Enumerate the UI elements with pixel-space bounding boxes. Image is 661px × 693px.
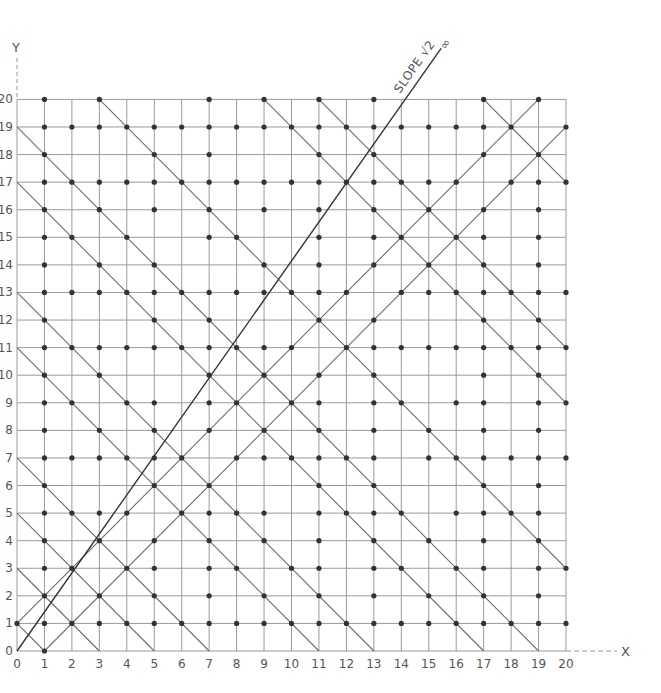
lattice-dot <box>152 124 157 129</box>
lattice-dot <box>69 235 74 240</box>
lattice-dot <box>426 290 431 295</box>
lattice-dot <box>261 97 266 102</box>
lattice-dot <box>42 373 47 378</box>
lattice-dot <box>124 180 129 185</box>
lattice-dot <box>536 400 541 405</box>
lattice-dot <box>316 428 321 433</box>
lattice-dot <box>42 317 47 322</box>
lattice-dot <box>481 97 486 102</box>
x-tick-label: 8 <box>233 657 241 671</box>
lattice-dot <box>42 483 47 488</box>
lattice-dot <box>42 345 47 350</box>
y-tick-label: 18 <box>0 148 13 162</box>
lattice-dot <box>536 455 541 460</box>
lattice-dot <box>207 621 212 626</box>
lattice-dot <box>42 648 47 653</box>
lattice-dot <box>344 510 349 515</box>
y-tick-label: 20 <box>0 92 13 106</box>
y-tick-label: 13 <box>0 285 13 299</box>
lattice-dot <box>207 400 212 405</box>
lattice-dot <box>536 373 541 378</box>
y-tick-label: 17 <box>0 175 13 189</box>
y-tick-label: 19 <box>0 120 13 134</box>
lattice-dot <box>152 538 157 543</box>
lattice-dot <box>371 400 376 405</box>
lattice-dot <box>509 124 514 129</box>
x-tick-label: 18 <box>503 657 518 671</box>
lattice-dot <box>97 510 102 515</box>
y-tick-label: 9 <box>5 396 13 410</box>
y-tick-label: 5 <box>5 506 13 520</box>
lattice-dot <box>152 621 157 626</box>
lattice-dot <box>316 262 321 267</box>
lattice-dot <box>371 621 376 626</box>
lattice-dot <box>481 428 486 433</box>
lattice-dot <box>152 483 157 488</box>
lattice-dot <box>371 483 376 488</box>
y-tick-label: 16 <box>0 203 13 217</box>
lattice-dot <box>179 455 184 460</box>
lattice-dot <box>42 538 47 543</box>
lattice-dot <box>316 538 321 543</box>
lattice-dot <box>97 538 102 543</box>
lattice-dot <box>371 593 376 598</box>
anti-diagonal-line <box>264 99 566 402</box>
x-tick-label: 19 <box>531 657 546 671</box>
x-tick-label: 1 <box>41 657 49 671</box>
lattice-dot <box>563 124 568 129</box>
lattice-dot <box>563 345 568 350</box>
lattice-dot <box>371 97 376 102</box>
diagonal-line <box>44 127 566 651</box>
lattice-dot <box>426 428 431 433</box>
lattice-dot <box>536 317 541 322</box>
lattice-dot <box>207 538 212 543</box>
lattice-dot <box>371 262 376 267</box>
lattice-dot <box>344 621 349 626</box>
lattice-dot <box>261 262 266 267</box>
lattice-dot <box>42 593 47 598</box>
lattice-dot <box>371 235 376 240</box>
lattice-dot <box>454 124 459 129</box>
lattice-dot <box>207 180 212 185</box>
lattice-dot <box>124 455 129 460</box>
lattice-dot <box>42 207 47 212</box>
lattice-dot <box>481 290 486 295</box>
lattice-dot <box>481 483 486 488</box>
anti-diagonal-line <box>17 182 484 651</box>
lattice-dot <box>426 180 431 185</box>
lattice-dot <box>481 400 486 405</box>
lattice-dot <box>316 566 321 571</box>
x-tick-label: 3 <box>96 657 104 671</box>
x-tick-label: 16 <box>449 657 464 671</box>
anti-diagonal-line <box>17 513 154 651</box>
x-tick-label: 12 <box>339 657 354 671</box>
lattice-dot <box>42 428 47 433</box>
lattice-dot <box>179 180 184 185</box>
lattice-dot <box>316 455 321 460</box>
tick-labels: 0123456789101112131415161718192001234567… <box>0 92 574 671</box>
lattice-dot <box>207 290 212 295</box>
x-tick-label: 15 <box>421 657 436 671</box>
lattice-dot <box>124 290 129 295</box>
x-tick-label: 4 <box>123 657 131 671</box>
lattice-dot <box>179 124 184 129</box>
lattice-dot <box>152 455 157 460</box>
lattice-dot <box>289 345 294 350</box>
anti-diagonal-line <box>99 99 566 568</box>
y-tick-label: 15 <box>0 230 13 244</box>
lattice-dot <box>316 621 321 626</box>
lattice-dot <box>152 593 157 598</box>
lattice-dot <box>481 455 486 460</box>
lattice-dot <box>563 290 568 295</box>
lattice-dot <box>399 235 404 240</box>
lattice-dot <box>261 428 266 433</box>
lattice-dot <box>371 180 376 185</box>
diagonal-line <box>17 99 539 623</box>
x-tick-label: 20 <box>558 657 573 671</box>
lattice-dot <box>97 621 102 626</box>
lattice-dot <box>289 621 294 626</box>
lattice-dot <box>481 317 486 322</box>
lattice-dot <box>261 373 266 378</box>
lattice-dot <box>234 566 239 571</box>
lattice-dot <box>481 566 486 571</box>
